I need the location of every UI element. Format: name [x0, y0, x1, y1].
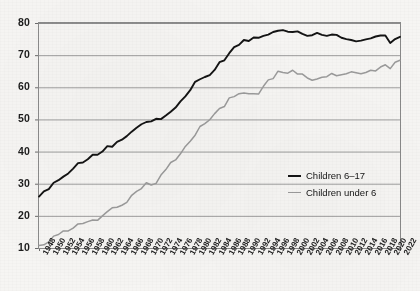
plot-frame-border [39, 23, 401, 249]
legend-item-label: Children 6–17 [306, 170, 365, 181]
legend-line-swatch-icon [288, 175, 301, 177]
legend-line-swatch-icon [288, 192, 301, 193]
data-series-group [39, 30, 400, 245]
labor-force-participation-chart: 1020304050607080 19481950195219541956195… [0, 0, 420, 291]
legend-item-label: Children under 6 [306, 187, 376, 198]
legend-item-children-under-6: Children under 6 [288, 187, 376, 198]
gridline-group [35, 24, 401, 252]
legend-item-children-6-17: Children 6–17 [288, 170, 365, 181]
